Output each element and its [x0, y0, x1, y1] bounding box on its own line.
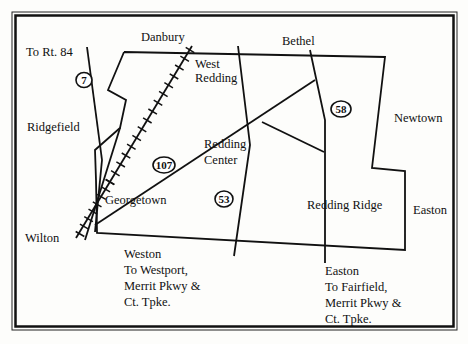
svg-text:Easton: Easton — [325, 264, 360, 278]
frame-inner — [16, 16, 454, 327]
railroad-icon — [76, 46, 195, 240]
svg-text:Weston: Weston — [124, 247, 162, 261]
label-newtown: Newtown — [394, 111, 443, 125]
svg-text:107: 107 — [156, 159, 173, 171]
route-7-road — [87, 47, 102, 160]
svg-text:7: 7 — [81, 74, 87, 86]
svg-text:53: 53 — [219, 193, 231, 205]
label-georgetown: Georgetown — [105, 193, 167, 207]
frame-outer — [12, 12, 457, 330]
svg-text:Merrit Pkwy &: Merrit Pkwy & — [124, 279, 201, 293]
label-to-rt84: To Rt. 84 — [26, 45, 73, 59]
svg-text:58: 58 — [336, 103, 348, 115]
label-redding-center-1: Redding — [204, 137, 247, 151]
label-west-redding-2: Redding — [195, 71, 238, 85]
svg-text:Merrit Pkwy &: Merrit Pkwy & — [325, 296, 402, 310]
label-wilton: Wilton — [25, 231, 60, 245]
route-107-road-branch — [262, 122, 324, 152]
label-easton-east: Easton — [413, 203, 448, 217]
route-107-shield-icon: 107 — [153, 157, 175, 173]
label-weston-directions: Weston To Westport, Merrit Pkwy & Ct. Tp… — [124, 247, 201, 309]
svg-text:Ct. Tpke.: Ct. Tpke. — [124, 295, 171, 309]
label-redding-center-2: Center — [204, 153, 238, 167]
svg-text:To Westport,: To Westport, — [124, 263, 188, 277]
label-bethel: Bethel — [282, 34, 315, 48]
svg-text:Ct. Tpke.: Ct. Tpke. — [325, 312, 372, 326]
route-7-shield-icon: 7 — [76, 73, 92, 88]
redding-area-map: 7 107 53 58 Danbury Bethel To Rt. 84 Wes… — [0, 0, 468, 344]
route-53-shield-icon: 53 — [215, 191, 233, 207]
label-danbury: Danbury — [141, 30, 185, 44]
label-ridgefield: Ridgefield — [27, 120, 81, 134]
label-easton-directions: Easton To Fairfield, Merrit Pkwy & Ct. T… — [325, 264, 402, 326]
label-redding-ridge: Redding Ridge — [307, 198, 383, 212]
svg-text:To Fairfield,: To Fairfield, — [325, 280, 387, 294]
route-58-shield-icon: 58 — [331, 101, 351, 117]
label-west-redding-1: West — [195, 57, 220, 71]
